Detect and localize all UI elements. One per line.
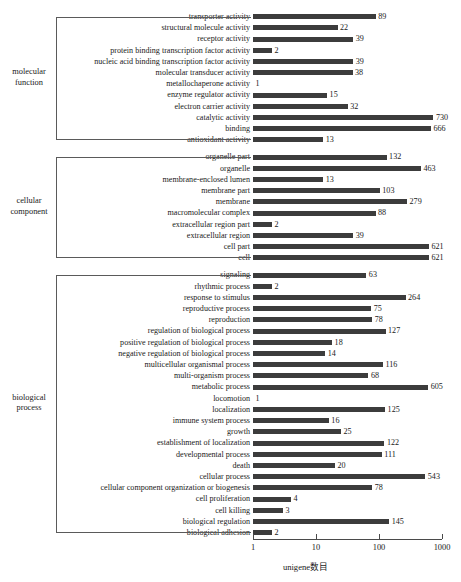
bar-value-label: 32 xyxy=(350,101,358,112)
row-label: organelle xyxy=(220,163,250,174)
bar xyxy=(253,233,353,238)
chart-row: extracellular region39 xyxy=(0,230,461,241)
chart-row: positive regulation of biological proces… xyxy=(0,337,461,348)
bar xyxy=(253,211,376,216)
bar-value-label: 621 xyxy=(431,241,443,252)
bar xyxy=(253,48,272,53)
bar xyxy=(253,25,338,30)
bar xyxy=(253,59,353,64)
bar xyxy=(253,273,366,278)
bar xyxy=(253,441,384,446)
bar-value-label: 13 xyxy=(326,174,334,185)
chart-row: rhythmic process2 xyxy=(0,281,461,292)
bar-value-label: 39 xyxy=(356,230,364,241)
bar-value-label: 2 xyxy=(274,527,278,538)
row-label: cellular process xyxy=(199,471,250,482)
bar xyxy=(253,407,385,412)
row-label: growth xyxy=(227,426,250,437)
row-label: antioxidant activity xyxy=(187,134,250,145)
bar-value-label: 116 xyxy=(386,359,398,370)
row-label: membrane xyxy=(216,196,250,207)
bar xyxy=(253,14,376,19)
bar-value-label: 145 xyxy=(392,516,404,527)
chart-row: structural molecule activity22 xyxy=(0,22,461,33)
chart-row: nucleic acid binding transcription facto… xyxy=(0,56,461,67)
bar-value-label: 22 xyxy=(340,22,348,33)
chart-row: cellular component organization or bioge… xyxy=(0,482,461,493)
chart-row: developmental process111 xyxy=(0,449,461,460)
row-label: rhythmic process xyxy=(194,281,250,292)
chart-row: membrane-enclosed lumen13 xyxy=(0,174,461,185)
chart-row: response to stimulus264 xyxy=(0,292,461,303)
bar xyxy=(253,244,429,249)
bar-value-label: 264 xyxy=(408,292,420,303)
chart-row: cell part621 xyxy=(0,241,461,252)
chart-row: macromolecular complex88 xyxy=(0,207,461,218)
bar-value-label: 38 xyxy=(355,67,363,78)
bar-value-label: 18 xyxy=(335,337,343,348)
row-label: multicellular organismal process xyxy=(145,359,251,370)
bar-value-label: 3 xyxy=(286,505,290,516)
row-label: membrane-enclosed lumen xyxy=(163,174,250,185)
row-label: positive regulation of biological proces… xyxy=(120,337,250,348)
row-label: regulation of biological process xyxy=(148,325,250,336)
row-label: immune system process xyxy=(173,415,250,426)
bar-value-label: 125 xyxy=(388,404,400,415)
bar xyxy=(253,199,407,204)
chart-row: death20 xyxy=(0,460,461,471)
bar xyxy=(253,177,323,182)
row-label: catalytic activity xyxy=(196,112,250,123)
row-label: extracellular region part xyxy=(172,219,250,230)
bar-value-label: 2 xyxy=(274,219,278,230)
bar xyxy=(253,519,389,524)
x-axis-line xyxy=(253,539,442,540)
bar-value-label: 20 xyxy=(337,460,345,471)
row-label: molecular transducer activity xyxy=(156,67,250,78)
row-label: transporter activity xyxy=(189,11,250,22)
row-label: localization xyxy=(212,404,250,415)
bar-value-label: 543 xyxy=(428,471,440,482)
bar-value-label: 2 xyxy=(274,45,278,56)
row-label: cell xyxy=(238,252,250,263)
x-axis-tick xyxy=(442,534,443,539)
bar-value-label: 78 xyxy=(375,482,383,493)
chart-row: biological adhesion2 xyxy=(0,527,461,538)
bar xyxy=(253,362,383,367)
row-label: binding xyxy=(225,123,250,134)
row-label: macromolecular complex xyxy=(168,207,250,218)
bar xyxy=(253,429,341,434)
bar-value-label: 279 xyxy=(410,196,422,207)
row-label: organelle part xyxy=(205,151,250,162)
x-axis-tick xyxy=(379,534,380,539)
row-label: metallochaperone activity xyxy=(166,78,250,89)
chart-row: enzyme regulator activity15 xyxy=(0,89,461,100)
bar xyxy=(253,188,380,193)
chart-row: immune system process16 xyxy=(0,415,461,426)
bar xyxy=(253,418,329,423)
chart-row: biological regulation145 xyxy=(0,516,461,527)
row-label: negative regulation of biological proces… xyxy=(118,348,250,359)
bar-value-label: 127 xyxy=(388,325,400,336)
chart-row: receptor activity39 xyxy=(0,33,461,44)
bar xyxy=(253,137,323,142)
chart-row: establishment of localization122 xyxy=(0,437,461,448)
bar-value-label: 111 xyxy=(384,449,396,460)
row-label: signaling xyxy=(220,269,250,280)
bar xyxy=(253,37,353,42)
bar-value-label: 15 xyxy=(330,89,338,100)
bar-value-label: 63 xyxy=(369,269,377,280)
row-label: electron carrier activity xyxy=(175,101,251,112)
row-label: cell proliferation xyxy=(196,493,250,504)
chart-row: reproduction78 xyxy=(0,314,461,325)
bar-value-label: 13 xyxy=(326,134,334,145)
bar xyxy=(253,255,429,260)
row-label: cellular component organization or bioge… xyxy=(100,482,250,493)
group-label-cellular-component: cellular component xyxy=(4,196,54,217)
chart-row: antioxidant activity13 xyxy=(0,134,461,145)
bar-value-label: 666 xyxy=(433,123,445,134)
x-axis-tick-label: 100 xyxy=(373,542,386,553)
bar xyxy=(253,166,421,171)
chart-row: binding666 xyxy=(0,123,461,134)
chart-row: multicellular organismal process116 xyxy=(0,359,461,370)
chart-row: regulation of biological process127 xyxy=(0,325,461,336)
